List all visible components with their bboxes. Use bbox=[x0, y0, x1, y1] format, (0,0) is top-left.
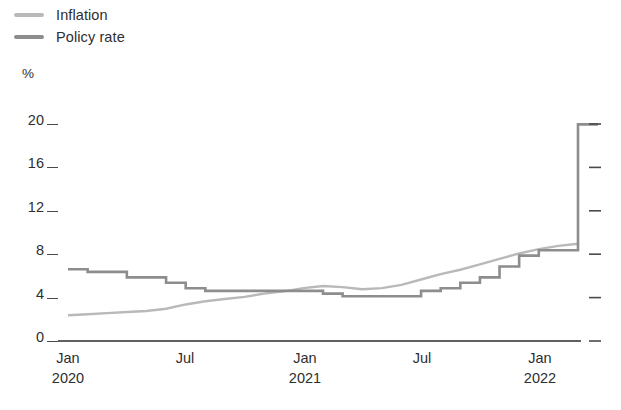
y-axis-tick-mark bbox=[47, 167, 58, 168]
series-line-policy-rate bbox=[68, 124, 598, 296]
y-axis-tick-mark bbox=[47, 211, 58, 212]
x-axis-tick-month: Jan bbox=[524, 349, 556, 369]
x-axis-tick-label: Jul bbox=[413, 349, 432, 369]
x-axis-tick-year: 2021 bbox=[289, 369, 321, 389]
y-axis-tick-mark bbox=[47, 341, 58, 342]
x-axis-tick-year: 2020 bbox=[52, 369, 84, 389]
series-line-inflation bbox=[68, 244, 578, 316]
x-axis-tick-year: 2022 bbox=[524, 369, 556, 389]
y-axis-tick-mark bbox=[47, 254, 58, 255]
x-axis-tick-month: Jan bbox=[289, 349, 321, 369]
x-axis-tick-month: Jul bbox=[413, 349, 432, 369]
x-axis-tick-label: Jul bbox=[176, 349, 195, 369]
chart-container: Inflation Policy rate % 201612840 Jan202… bbox=[0, 0, 621, 410]
series-layer bbox=[68, 124, 598, 315]
y-axis-tick-mark bbox=[47, 298, 58, 299]
x-axis-tick-label: Jan2022 bbox=[524, 349, 556, 388]
x-axis-tick-month: Jan bbox=[52, 349, 84, 369]
y-axis-tick-mark bbox=[47, 124, 58, 125]
x-axis-tick-label: Jan2020 bbox=[52, 349, 84, 388]
x-axis-tick-label: Jan2021 bbox=[289, 349, 321, 388]
x-axis-tick-month: Jul bbox=[176, 349, 195, 369]
right-axis-ticks bbox=[589, 124, 601, 341]
